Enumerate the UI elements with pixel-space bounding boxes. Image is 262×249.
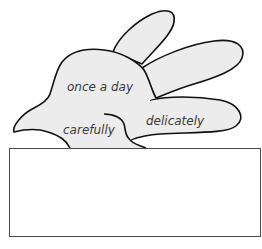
word-palm: once a day: [67, 80, 134, 94]
finger-middle: [142, 40, 243, 98]
worksheet-canvas: once a day carefully delicately: [0, 0, 262, 249]
word-thumb: carefully: [63, 123, 116, 137]
answer-box[interactable]: [9, 148, 261, 237]
word-finger: delicately: [146, 114, 205, 128]
